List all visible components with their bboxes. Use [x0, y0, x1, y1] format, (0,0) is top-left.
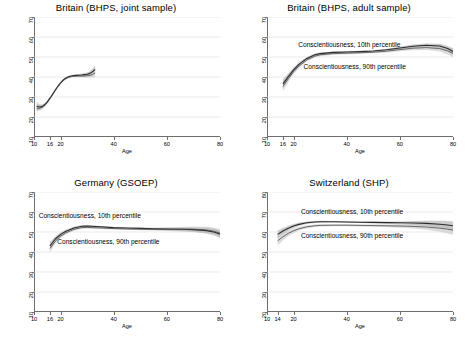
y-tick-mark	[32, 252, 35, 253]
y-tick-mark	[265, 192, 268, 193]
x-tick-label: 40	[344, 141, 350, 147]
x-tick-mark	[34, 137, 35, 140]
y-tick-mark	[32, 117, 35, 118]
x-tick-mark	[453, 137, 454, 140]
panel-title: Germany (GSOEP)	[0, 177, 232, 189]
series-annotation-p10: Conscientiousness, 10th percentile	[39, 212, 141, 219]
y-tick-mark	[32, 57, 35, 58]
x-tick-mark	[50, 137, 51, 140]
x-tick-label: 10	[31, 316, 37, 322]
y-tick-mark	[265, 117, 268, 118]
series-annotation-p90: Conscientiousness, 90th percentile	[57, 238, 159, 245]
x-tick-label: 80	[217, 316, 223, 322]
series-annotation-p10: Conscientiousness, 10th percentile	[298, 41, 400, 48]
x-tick-label: 14	[275, 316, 281, 322]
x-tick-label: 10	[264, 316, 270, 322]
y-tick-mark	[265, 292, 268, 293]
panel-germany: Germany (GSOEP) Predicted Political Inte…	[0, 175, 232, 349]
series-annotation-p90: Conscientiousness, 90th percentile	[304, 63, 406, 70]
x-tick-mark	[267, 137, 268, 140]
x-tick-mark	[114, 312, 115, 315]
series-annotation-p10: Conscientiousness, 10th percentile	[301, 208, 403, 215]
x-tick-mark	[61, 312, 62, 315]
x-tick-mark	[267, 312, 268, 315]
x-axis-label: Age	[267, 148, 453, 154]
x-tick-mark	[220, 312, 221, 315]
x-tick-mark	[400, 312, 401, 315]
x-tick-label: 40	[111, 141, 117, 147]
x-tick-mark	[50, 312, 51, 315]
plot-canvas	[34, 17, 220, 137]
y-tick-mark	[265, 232, 268, 233]
x-axis-label: Age	[267, 323, 453, 329]
x-tick-label: 80	[450, 141, 456, 147]
x-tick-mark	[347, 312, 348, 315]
y-tick-mark	[32, 212, 35, 213]
series-annotation-p90: Conscientiousness, 90th percentile	[301, 232, 403, 239]
panel-title: Switzerland (SHP)	[233, 177, 465, 189]
y-tick-mark	[32, 37, 35, 38]
x-tick-mark	[167, 312, 168, 315]
y-tick-mark	[265, 97, 268, 98]
y-tick-mark	[32, 77, 35, 78]
y-tick-mark	[265, 17, 268, 18]
plot-canvas	[34, 192, 220, 312]
x-axis-label: Age	[34, 148, 220, 154]
plot-canvas	[267, 17, 453, 137]
y-tick-mark	[32, 97, 35, 98]
x-tick-mark	[167, 137, 168, 140]
panel-britain-adult: Britain (BHPS, adult sample) Predicted P…	[233, 0, 465, 174]
x-tick-label: 60	[397, 141, 403, 147]
x-tick-mark	[34, 312, 35, 315]
x-tick-label: 40	[111, 316, 117, 322]
x-tick-label: 60	[164, 316, 170, 322]
x-tick-label: 16	[47, 316, 53, 322]
x-tick-label: 20	[57, 141, 63, 147]
panel-title: Britain (BHPS, joint sample)	[0, 2, 232, 14]
plot-area: Predicted Political Interest 10203040506…	[34, 17, 220, 137]
x-tick-label: 60	[397, 316, 403, 322]
x-tick-label: 10	[31, 141, 37, 147]
x-tick-label: 80	[450, 316, 456, 322]
x-tick-label: 80	[217, 141, 223, 147]
x-tick-mark	[278, 312, 279, 315]
y-tick-mark	[265, 77, 268, 78]
x-tick-mark	[294, 312, 295, 315]
x-tick-label: 20	[57, 316, 63, 322]
y-tick-mark	[265, 212, 268, 213]
x-tick-mark	[347, 137, 348, 140]
x-tick-mark	[220, 137, 221, 140]
y-tick-mark	[32, 17, 35, 18]
figure-panel-grid: Britain (BHPS, joint sample) Predicted P…	[0, 0, 465, 349]
plot-area: Predicted Political Interest 10203040506…	[267, 17, 453, 137]
panel-britain-joint: Britain (BHPS, joint sample) Predicted P…	[0, 0, 232, 174]
x-tick-label: 20	[290, 141, 296, 147]
x-axis-label: Age	[34, 323, 220, 329]
y-tick-mark	[265, 272, 268, 273]
panel-title: Britain (BHPS, adult sample)	[233, 2, 465, 14]
x-tick-label: 16	[47, 141, 53, 147]
y-tick-mark	[265, 252, 268, 253]
plot-area: Predicted Political Interest 20304050607…	[267, 192, 453, 312]
y-tick-mark	[32, 232, 35, 233]
y-tick-mark	[265, 57, 268, 58]
x-tick-mark	[283, 137, 284, 140]
y-tick-mark	[265, 37, 268, 38]
plot-area: Predicted Political Interest 10203040506…	[34, 192, 220, 312]
x-tick-mark	[400, 137, 401, 140]
x-tick-label: 10	[264, 141, 270, 147]
y-tick-mark	[32, 192, 35, 193]
x-tick-label: 60	[164, 141, 170, 147]
x-tick-mark	[453, 312, 454, 315]
x-tick-mark	[61, 137, 62, 140]
x-tick-label: 40	[344, 316, 350, 322]
x-tick-label: 16	[280, 141, 286, 147]
y-tick-mark	[32, 272, 35, 273]
y-tick-mark	[32, 292, 35, 293]
x-tick-mark	[114, 137, 115, 140]
panel-switzerland: Switzerland (SHP) Predicted Political In…	[233, 175, 465, 349]
x-tick-label: 20	[290, 316, 296, 322]
x-tick-mark	[294, 137, 295, 140]
